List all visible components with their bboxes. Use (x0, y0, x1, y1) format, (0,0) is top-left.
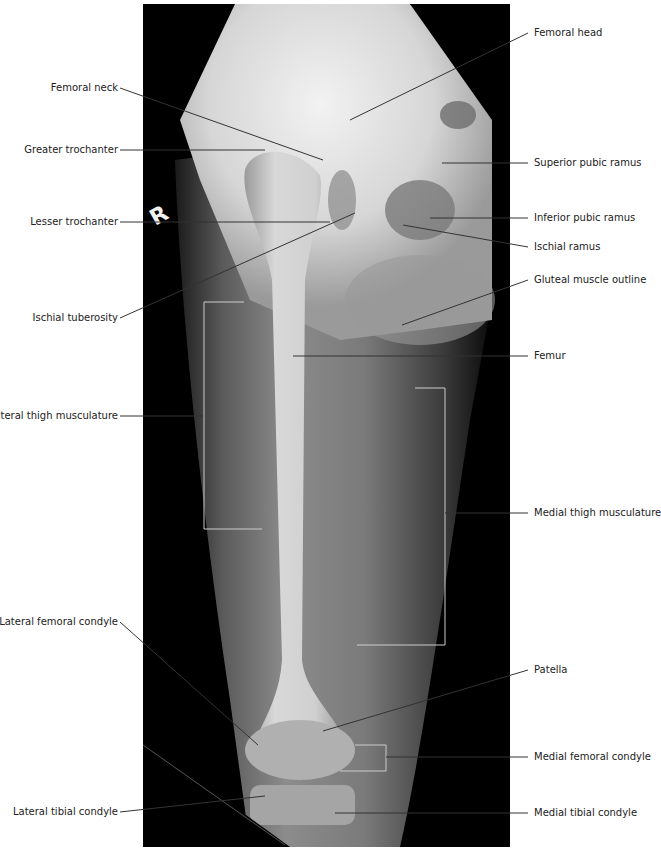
label-femoral-neck: Femoral neck (51, 82, 118, 94)
label-lateral-femoral-condyle: Lateral femoral condyle (0, 616, 118, 628)
label-femoral-head: Femoral head (534, 27, 602, 39)
label-ischial-ramus: Ischial ramus (534, 241, 600, 253)
label-femur: Femur (534, 350, 566, 362)
label-superior-pubic-ramus: Superior pubic ramus (534, 157, 642, 169)
label-gluteal-muscle-outline: Gluteal muscle outline (534, 274, 646, 286)
label-medial-tibial-condyle: Medial tibial condyle (534, 807, 637, 819)
label-greater-trochanter: Greater trochanter (24, 144, 118, 156)
label-medial-thigh-musculature: Medial thigh musculature (534, 507, 661, 519)
label-medial-femoral-condyle: Medial femoral condyle (534, 751, 651, 763)
label-lateral-tibial-condyle: Lateral tibial condyle (13, 806, 118, 818)
label-lateral-thigh-musculature: Lateral thigh musculature (0, 410, 118, 422)
label-lesser-trochanter: Lesser trochanter (30, 216, 118, 228)
label-patella: Patella (534, 664, 567, 676)
label-ischial-tuberosity: Ischial tuberosity (33, 312, 118, 324)
label-inferior-pubic-ramus: Inferior pubic ramus (534, 212, 635, 224)
